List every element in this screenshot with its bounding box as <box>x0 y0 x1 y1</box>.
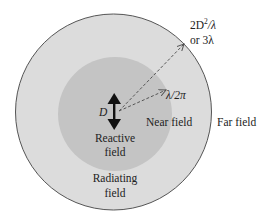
radiating-field-label-line1: Radiating <box>93 172 138 185</box>
near-field-label: Near field <box>146 116 193 128</box>
antenna-size-label: D <box>98 106 108 118</box>
outer-boundary-label-line2: or 3λ <box>190 34 214 46</box>
inner-boundary-label: λ/2π <box>165 89 187 101</box>
reactive-field-label-line1: Reactive <box>95 132 135 144</box>
radiating-field-label-line2: field <box>104 187 125 199</box>
outer-boundary-label-line1: 2D2/λ <box>190 17 216 31</box>
field-regions-diagram: D Reactive field Near field Radiating fi… <box>0 0 266 221</box>
reactive-field-label-line2: field <box>104 146 125 158</box>
far-field-label: Far field <box>217 116 257 128</box>
outer-boundary-suffix: /λ <box>207 19 216 31</box>
outer-boundary-prefix: 2D <box>190 19 204 31</box>
